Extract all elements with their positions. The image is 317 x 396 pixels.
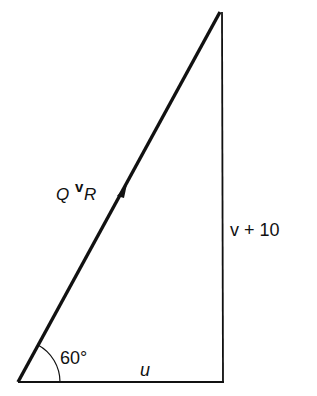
hypotenuse-vector-qvr (18, 12, 220, 382)
vertical-side-v-plus-10 (222, 12, 223, 382)
angle-label: 60° (60, 348, 87, 368)
angle-arc-60 (38, 345, 60, 382)
vector-triangle-diagram: Q v R v + 10 u 60° (0, 0, 317, 396)
hypotenuse-label-v: v (75, 178, 84, 195)
arrowhead-icon (117, 184, 127, 198)
vertical-side-label: v + 10 (230, 220, 280, 240)
base-label-u: u (140, 360, 150, 380)
hypotenuse-label-q: Q (56, 185, 69, 204)
hypotenuse-label-r: R (84, 185, 96, 204)
